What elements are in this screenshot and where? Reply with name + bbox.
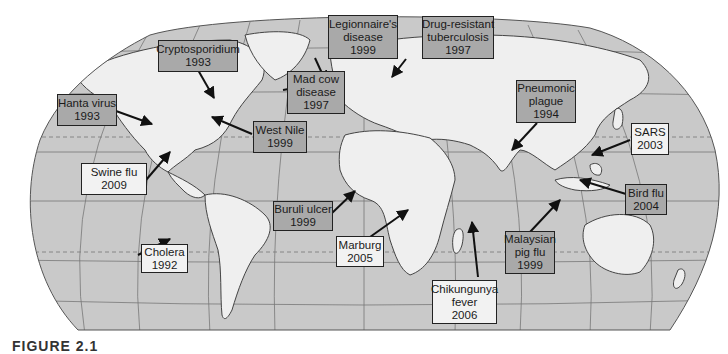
label-text: Marburg [339,239,382,252]
label-sars: SARS 2003 [631,123,669,155]
label-text: Drug-resistant [422,18,494,31]
label-hanta-virus: Hanta virus 1993 [57,94,117,126]
label-year: 1993 [74,110,100,123]
label-text: Legionnaire's [329,18,397,31]
label-marburg: Marburg 2005 [336,236,384,267]
label-year: 1999 [267,137,293,150]
label-text-2: plague [529,95,564,108]
label-year: 1999 [350,44,376,57]
label-text: Cholera [144,246,184,259]
label-buruli-ulcer: Buruli ulcer 1999 [273,201,333,231]
label-pneumonic-plague: Pneumonic plague 1994 [516,80,576,123]
label-text: Buruli ulcer [274,203,332,216]
label-text: Swine flu [91,166,138,179]
label-year: 1993 [185,56,211,69]
label-text-2: pig flu [515,246,546,259]
label-year: 1997 [303,99,329,112]
label-text: Hanta virus [58,97,116,110]
label-text: SARS [634,126,665,139]
label-text: Bird flu [628,187,664,200]
label-cholera: Cholera 1992 [141,244,188,273]
label-mad-cow-disease: Mad cow disease 1997 [287,71,345,114]
label-text-2: disease [343,31,383,44]
label-text-2: fever [452,296,478,309]
label-year: 2009 [101,179,127,192]
label-year: 2006 [452,309,478,322]
label-text: West Nile [256,124,305,137]
label-text: Malaysian [504,233,556,246]
label-chikungunya-fever: Chikungunya fever 2006 [432,280,497,324]
label-text: Cryptosporidium [156,43,240,56]
label-year: 1999 [517,259,543,272]
label-year: 1994 [533,108,559,121]
figure-caption: FIGURE 2.1 [12,338,98,354]
label-bird-flu: Bird flu 2004 [625,184,667,215]
label-year: 2003 [637,139,663,152]
label-year: 2005 [347,252,373,265]
label-text: Mad cow [293,73,339,86]
label-text: Pneumonic [517,82,575,95]
label-text: Chikungunya [431,283,498,296]
label-west-nile: West Nile 1999 [253,121,307,153]
label-legionnaires-disease: Legionnaire's disease 1999 [328,15,398,59]
label-year: 1997 [445,44,471,57]
label-text-2: tuberculosis [427,31,488,44]
label-text-2: disease [296,86,336,99]
label-year: 1999 [290,216,316,229]
label-drug-resistant-tb: Drug-resistant tuberculosis 1997 [422,16,494,59]
label-year: 2004 [633,200,659,213]
label-year: 1992 [152,259,178,272]
label-malaysian-pig-flu: Malaysian pig flu 1999 [505,231,555,274]
label-swine-flu: Swine flu 2009 [81,163,147,195]
label-cryptosporidium: Cryptosporidium 1993 [158,40,238,72]
